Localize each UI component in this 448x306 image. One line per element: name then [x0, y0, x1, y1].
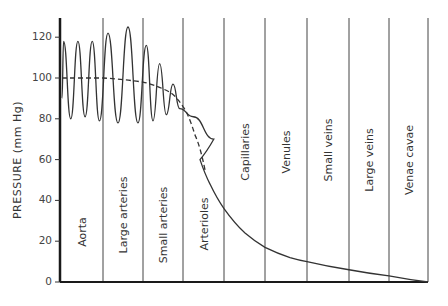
- segment-label-large-arteries: Large arteries: [117, 177, 130, 254]
- segment-label-aorta: Aorta: [75, 217, 88, 247]
- y-tick-label: 40: [24, 193, 52, 205]
- y-tick-label: 100: [24, 71, 52, 83]
- segment-label-small-veins: Small veins: [322, 118, 335, 181]
- pressure-chart: [0, 0, 448, 306]
- y-tick-label: 60: [24, 153, 52, 165]
- y-tick-label: 20: [24, 234, 52, 246]
- y-tick-label: 0: [24, 275, 52, 287]
- segment-label-arterioles: Arterioles: [197, 198, 210, 251]
- y-axis-label: PRESSURE (mm Hg): [11, 101, 24, 219]
- segment-label-venae-cavae: Venae cavae: [402, 125, 415, 195]
- segment-label-large-veins: Large veins: [363, 128, 376, 191]
- segment-label-small-arteries: Small arteries: [157, 187, 170, 263]
- segment-label-venules: Venules: [280, 131, 293, 174]
- y-tick-label: 120: [24, 30, 52, 42]
- y-tick-label: 80: [24, 112, 52, 124]
- segment-label-capillaries: Capillaries: [238, 123, 251, 180]
